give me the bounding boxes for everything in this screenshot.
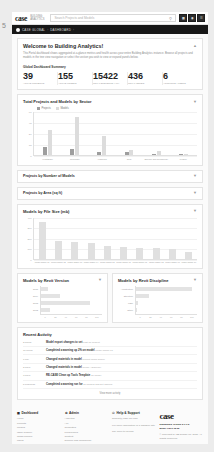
- bar[interactable]: [75, 117, 79, 155]
- bar-group[interactable]: [43, 130, 52, 156]
- bar[interactable]: [43, 147, 47, 155]
- breadcrumb-item-dashboard[interactable]: DASHBOARD: [50, 28, 71, 32]
- chevron-down-icon[interactable]: ▼: [193, 191, 197, 195]
- bar[interactable]: [104, 246, 111, 258]
- accordion-projects-by-models[interactable]: Projects by Number of Models ▼: [17, 170, 203, 183]
- bar[interactable]: [97, 152, 101, 156]
- home-icon[interactable]: [16, 28, 20, 32]
- bar[interactable]: [102, 136, 106, 155]
- bar[interactable]: [41, 308, 50, 312]
- bar[interactable]: [136, 308, 137, 312]
- bar[interactable]: [169, 249, 176, 259]
- chevron-down-icon[interactable]: ▼: [193, 174, 197, 178]
- chevron-down-icon[interactable]: ▼: [193, 209, 197, 213]
- screenshot-root: 5 case BUILDINGANALYTICS Search Projects…: [0, 0, 214, 452]
- activity-meta: post on Project: [82, 341, 99, 344]
- support-email[interactable]: support@case-inc.com: [112, 417, 156, 421]
- view-more-activity-link[interactable]: View more activity: [23, 389, 197, 395]
- accordion-projects-by-area[interactable]: Projects by Area (sq ft) ▼: [17, 187, 203, 200]
- bar[interactable]: [71, 242, 78, 259]
- search-icon[interactable]: ⚲: [169, 16, 172, 21]
- footer-brand-logo: case: [160, 411, 204, 421]
- bar[interactable]: [125, 152, 129, 155]
- x-tick: 60: [166, 316, 176, 318]
- activity-row[interactable]: 2 hoursModel export changes to set post …: [23, 339, 197, 347]
- bar[interactable]: [41, 294, 60, 298]
- bar[interactable]: [157, 151, 161, 155]
- welcome-card: Welcome to Building Analytics! ▲ This Po…: [17, 38, 203, 90]
- activity-row[interactable]: 11 hoursCompleted a warning up 2% on mod…: [23, 347, 197, 355]
- bar[interactable]: [136, 248, 143, 259]
- bar[interactable]: [41, 287, 48, 291]
- bar-group[interactable]: [70, 117, 79, 155]
- grid-line: [34, 156, 197, 157]
- chevron-up-icon[interactable]: ▲: [193, 44, 197, 48]
- bar-row[interactable]: Other: [118, 307, 197, 314]
- bar-row[interactable]: Architecture: [118, 286, 197, 293]
- chevron-down-icon[interactable]: ▼: [193, 100, 197, 104]
- bar[interactable]: [179, 154, 183, 155]
- bar[interactable]: [185, 252, 192, 259]
- bar[interactable]: [120, 247, 127, 259]
- chevron-down-icon[interactable]: ▼: [98, 278, 102, 282]
- activity-row[interactable]: 2 daysChanged materials in model Room Ad…: [23, 364, 197, 372]
- bar-row[interactable]: 2013: [23, 300, 102, 307]
- chevron-down-icon[interactable]: ▼: [193, 278, 197, 282]
- grid-icon[interactable]: ▦: [179, 14, 187, 22]
- bar[interactable]: [55, 241, 62, 259]
- bar-row[interactable]: Structure: [118, 293, 197, 300]
- bar[interactable]: [136, 301, 138, 305]
- bar[interactable]: [136, 287, 192, 291]
- bar[interactable]: [70, 149, 74, 156]
- release-label: Minor Fixes 12.02: [160, 427, 180, 430]
- bar-group[interactable]: [179, 154, 188, 155]
- revit-discipline-header: Models by Revit Discipline ▼: [118, 278, 197, 283]
- y-tick: 60: [29, 111, 32, 114]
- filesize-chart-title: Models by File Size (mb): [23, 209, 69, 214]
- brand-logo[interactable]: case: [15, 14, 27, 23]
- activity-time: 5 business: [23, 383, 43, 386]
- x-tick: 0: [40, 316, 50, 318]
- legend-item-projects[interactable]: Projects: [37, 107, 51, 110]
- bar-row[interactable]: MEP: [118, 300, 197, 307]
- bar[interactable]: [184, 154, 188, 155]
- activity-row[interactable]: 5 businessCompleted a warning run for al…: [23, 381, 197, 389]
- bar-row[interactable]: 2014: [23, 293, 102, 300]
- activity-row[interactable]: 1 dayChanged materials in model Project …: [23, 355, 197, 363]
- bell-icon[interactable]: ◉: [188, 14, 196, 22]
- search-placeholder-text: Search Projects and Models: [54, 16, 94, 20]
- help-icon: ☉: [112, 411, 115, 415]
- bar-group[interactable]: [152, 151, 161, 155]
- bar[interactable]: [136, 294, 149, 298]
- bar-group[interactable]: [125, 150, 134, 155]
- activity-row[interactable]: 3 daysRE-CASE Clean up Tools Template on…: [23, 372, 197, 380]
- filesize-bar-chart: 0100200300400: [23, 218, 197, 260]
- x-tick: 80: [176, 316, 186, 318]
- bar[interactable]: [41, 301, 90, 305]
- bar-row[interactable]: 2012: [23, 307, 102, 314]
- welcome-header: Welcome to Building Analytics! ▲: [23, 43, 197, 49]
- footer-link[interactable]: Users: [17, 439, 61, 443]
- bar[interactable]: [153, 248, 160, 259]
- activity-time: 1 day: [23, 358, 43, 361]
- search-input[interactable]: Search Projects and Models ⚲: [50, 14, 176, 22]
- bar[interactable]: [88, 243, 95, 259]
- breadcrumb-item-global[interactable]: CASE GLOBAL: [22, 28, 45, 32]
- kpi-label: ACCOUNTS / USERS: [163, 82, 194, 85]
- footer-heading-dashboard: ▦ Dashboard: [17, 411, 61, 415]
- legend-item-models[interactable]: Models: [56, 107, 69, 110]
- kpi-value: 436: [128, 72, 159, 81]
- activity-time: 3 days: [23, 374, 43, 377]
- bar[interactable]: [152, 154, 156, 155]
- kpi-label: TOTAL ISSUES: [128, 82, 159, 85]
- user-icon[interactable]: ☰: [197, 14, 205, 22]
- bar[interactable]: [129, 150, 133, 155]
- bar-row[interactable]: 2015: [23, 286, 102, 293]
- bar[interactable]: [48, 130, 52, 156]
- bar-group[interactable]: [97, 136, 106, 155]
- footer-heading-label: Admin: [69, 411, 79, 415]
- footer-link[interactable]: Science and Technology: [65, 439, 109, 443]
- legend-swatch: [37, 107, 40, 110]
- bar[interactable]: [39, 222, 46, 258]
- sector-bar-chart: 015304560: [23, 112, 197, 156]
